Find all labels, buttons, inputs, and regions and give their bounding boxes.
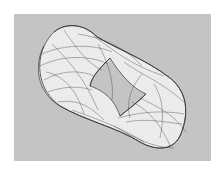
strange-attractor-figure [14, 14, 211, 161]
attractor-panel [14, 14, 211, 161]
